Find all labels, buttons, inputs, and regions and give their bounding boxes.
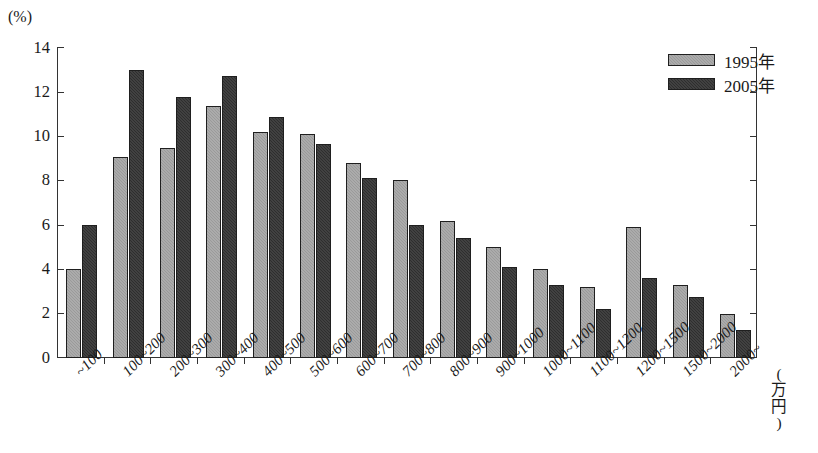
legend-item-1995年: 1995年	[668, 48, 775, 72]
legend-label: 1995年	[724, 48, 775, 73]
x-axis-unit-char: )	[768, 415, 790, 431]
bar-~100-1995年	[66, 269, 81, 358]
bar-400~500-2005年	[269, 117, 284, 358]
bar-100~200-1995年	[113, 157, 128, 359]
bar-200~300-2005年	[176, 97, 191, 358]
bar-700~800-2005年	[409, 225, 424, 358]
x-axis-unit-label: (万円)	[768, 366, 790, 432]
legend-label: 2005年	[724, 72, 775, 97]
bar-600~700-2005年	[362, 178, 377, 358]
bar-100~200-2005年	[129, 70, 144, 358]
legend-item-2005年: 2005年	[668, 72, 775, 96]
bar-300~400-1995年	[206, 106, 221, 358]
y-axis-tick-label: 14	[4, 40, 50, 57]
bar-500~600-1995年	[300, 134, 315, 358]
bar-500~600-2005年	[316, 144, 331, 358]
x-axis-unit-char: (	[768, 366, 790, 382]
y-axis-tick-label: 0	[4, 350, 50, 367]
legend-swatch	[668, 54, 715, 66]
income-distribution-bar-chart: (%) 02468101214 ~100100~200200~300300~40…	[0, 0, 818, 453]
y-axis-unit-label: (%)	[8, 8, 32, 26]
legend: 1995年2005年	[668, 48, 775, 96]
bar-200~300-1995年	[160, 148, 175, 358]
bar-800~900-2005年	[456, 238, 471, 358]
bar-300~400-2005年	[222, 76, 237, 358]
bar-700~800-1995年	[393, 180, 408, 358]
y-axis-tick-label: 4	[4, 261, 50, 278]
bar-~100-2005年	[82, 225, 97, 358]
y-axis-tick-label: 8	[4, 172, 50, 189]
legend-swatch	[668, 78, 715, 90]
y-axis-tick-label: 10	[4, 128, 50, 145]
bar-600~700-1995年	[346, 163, 361, 358]
bars-layer	[57, 48, 757, 358]
x-axis-unit-char: 円	[768, 399, 790, 415]
y-axis-tick-label: 6	[4, 217, 50, 234]
y-axis-tick-label: 12	[4, 84, 50, 101]
x-axis-unit-char: 万	[768, 382, 790, 398]
bar-400~500-1995年	[253, 132, 268, 358]
y-axis-tick-label: 2	[4, 305, 50, 322]
